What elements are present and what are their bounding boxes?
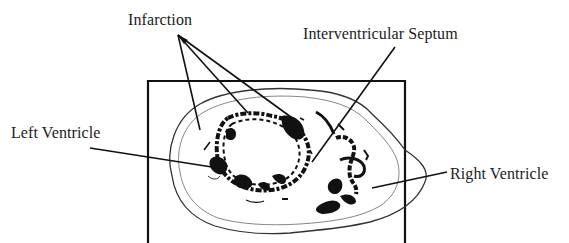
label-infarction: Infarction (128, 12, 192, 28)
right-ventricle-pointer (372, 172, 447, 188)
label-right-ventricle: Right Ventricle (450, 166, 549, 182)
label-left-ventricle: Left Ventricle (11, 125, 101, 141)
label-interventricular-septum: Interventricular Septum (303, 26, 458, 42)
specimen-frame (148, 81, 405, 243)
right-ventricle-tissue (316, 112, 368, 214)
septum-pointer (312, 47, 395, 162)
heart-cross-section-diagram: Infarction Interventricular Septum Left … (0, 0, 569, 243)
left-ventricle-pointer (90, 148, 212, 167)
left-ventricle-infarct-ring (204, 113, 312, 202)
diagram-canvas (0, 0, 569, 243)
